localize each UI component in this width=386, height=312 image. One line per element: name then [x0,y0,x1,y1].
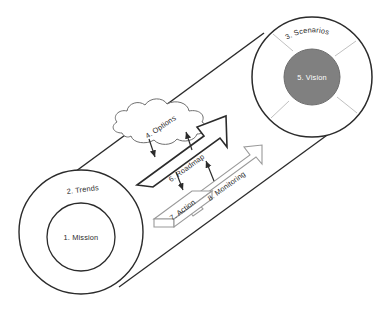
arrow-monitoring-to-roadmap [206,161,214,181]
vision-label: 5. Vision [297,73,327,82]
mission-label: 1. Mission [64,233,99,242]
diagram-canvas: 1. Mission 2. Trends 3. Scenarios 5. Vis… [0,0,386,312]
strategy-cycle-diagram: 1. Mission 2. Trends 3. Scenarios 5. Vis… [0,0,386,312]
arrow-options-to-roadmap [149,139,155,157]
